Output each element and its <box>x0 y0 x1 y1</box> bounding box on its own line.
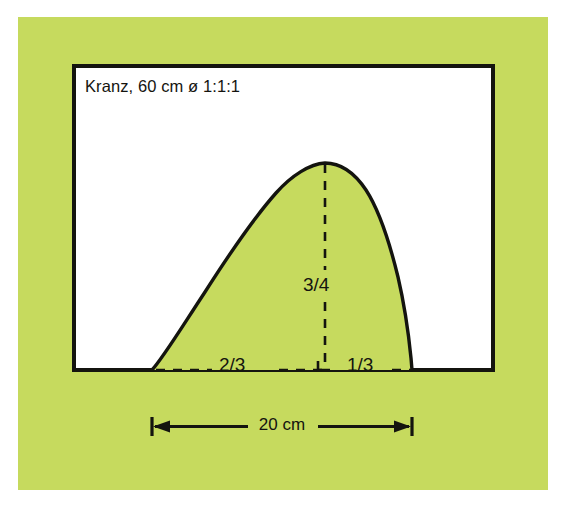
dimension-arrow-right-icon <box>394 421 411 433</box>
base-right-fraction-label: 1/3 <box>347 355 373 374</box>
height-fraction-label: 3/4 <box>303 275 329 294</box>
page-title: Kranz, 60 cm ø 1:1:1 <box>85 78 240 95</box>
dimension-arrow-left-icon <box>153 421 170 433</box>
figure-root: Kranz, 60 cm ø 1:1:1 2/3 1/3 3/4 20 cm <box>0 0 567 506</box>
dimension-label: 20 cm <box>259 416 305 433</box>
base-left-fraction-label: 2/3 <box>219 355 245 374</box>
